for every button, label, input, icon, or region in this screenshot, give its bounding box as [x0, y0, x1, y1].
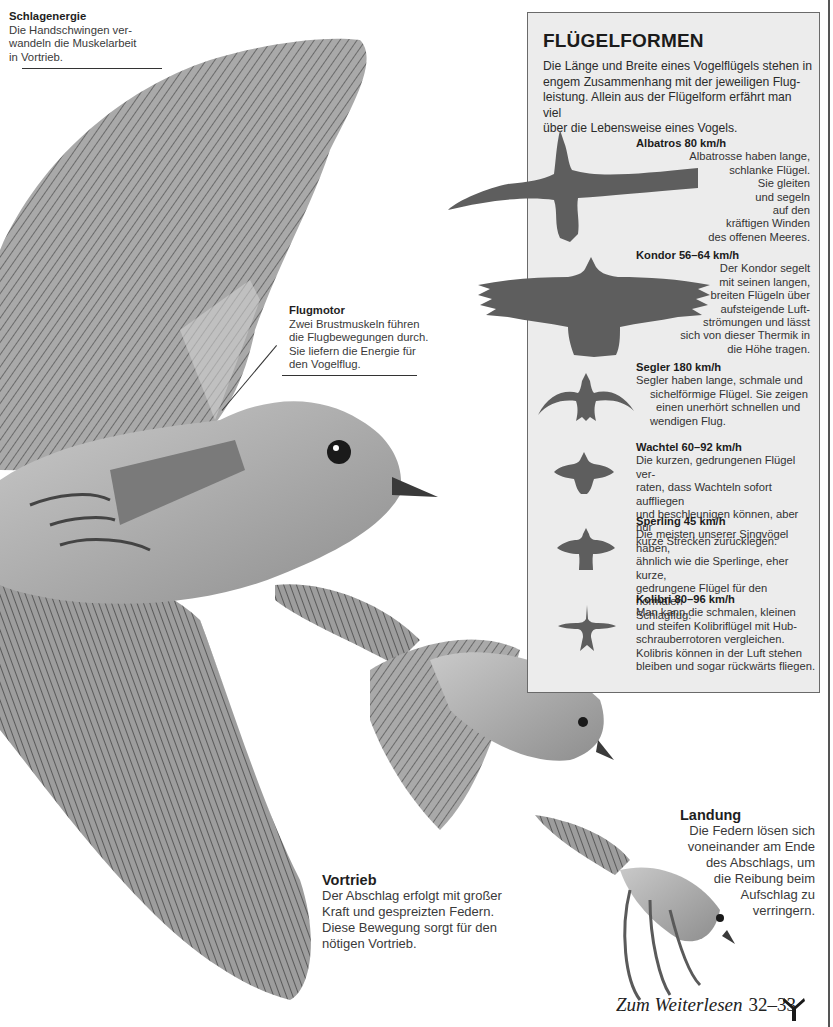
entry-line: und steifen Kolibriflügel mit Hub-	[636, 620, 816, 633]
entry-line: sichelförmige Flügel. Sie zeigen	[636, 388, 816, 401]
caption-line: in Vortrieb.	[9, 51, 169, 65]
caption-line: Die Federn lösen sich	[680, 823, 815, 839]
caption-line: verringern.	[680, 903, 815, 919]
entry-line: bleiben und sogar rückwärts fliegen.	[636, 660, 816, 673]
intro-line: engem Zusammenhang mit der jeweiligen Fl…	[543, 75, 813, 91]
entry-line: raten, dass Wachteln sofort auffliegen	[636, 481, 816, 508]
reference-arrow-icon	[782, 996, 806, 1022]
entry-name: Sperling 45 km/h	[636, 515, 816, 528]
swift-silhouette-icon	[538, 373, 634, 421]
caption-title: Landung	[680, 807, 815, 823]
caption-line: Zwei Brustmuskeln führen	[289, 318, 439, 332]
caption-schlagenergie: Schlagenergie Die Handschwingen ver- wan…	[9, 10, 169, 64]
caption-line: wandeln die Muskelarbeit	[9, 37, 169, 51]
entry-segler: Segler 180 km/h Segler haben lange, schm…	[636, 361, 816, 428]
entry-line: ähnlich wie die Sperlinge, eher kurze,	[636, 555, 816, 582]
condor-silhouette-icon	[478, 257, 710, 357]
main-bird-lower-wing	[0, 560, 311, 1000]
entry-line: Segler haben lange, schmale und	[636, 374, 816, 387]
entry-line: Kolibris können in der Luft stehen	[636, 647, 816, 660]
entry-line: einen unerhört schnellen und	[636, 401, 816, 414]
leader-line-flugmotor	[282, 375, 417, 376]
caption-line: die Reibung beim	[680, 871, 815, 887]
quail-silhouette-icon	[554, 452, 614, 494]
info-box-title: FLÜGELFORMEN	[543, 30, 704, 52]
caption-line: Aufschlag zu	[680, 887, 815, 903]
caption-flugmotor: Flugmotor Zwei Brustmuskeln führen die F…	[289, 304, 439, 372]
caption-line: die Flugbewegungen durch.	[289, 331, 439, 345]
entry-line: wendigen Flug.	[636, 415, 816, 428]
info-box-intro: Die Länge und Breite eines Vogelflügels …	[543, 59, 813, 137]
page-edge-rule	[828, 0, 830, 1027]
caption-landung: Landung Die Federn lösen sich voneinande…	[680, 807, 815, 919]
caption-title: Flugmotor	[289, 304, 439, 318]
entry-line: Man kann die schmalen, kleinen	[636, 606, 816, 619]
entry-kolibri: Kolibri 80–96 km/h Man kann die schmalen…	[636, 593, 816, 673]
caption-title: Vortrieb	[322, 872, 512, 888]
caption-line: den Vogelflug.	[289, 358, 439, 372]
albatross-silhouette-icon	[448, 130, 698, 242]
caption-line: des Abschlags, um	[680, 855, 815, 871]
entry-name: Segler 180 km/h	[636, 361, 816, 374]
entry-name: Wachtel 60–92 km/h	[636, 441, 816, 454]
further-reading-reference[interactable]: Zum Weiterlesen32–33	[616, 994, 796, 1016]
further-reading-label: Zum Weiterlesen	[616, 994, 742, 1015]
caption-line: voneinander am Ende	[680, 839, 815, 855]
intro-line: leistung. Allein aus der Flügelform erfä…	[543, 90, 813, 121]
caption-line: nötigen Vortrieb.	[322, 936, 512, 952]
caption-line: Die Handschwingen ver-	[9, 24, 169, 38]
entry-line: Die kurzen, gedrungenen Flügel ver-	[636, 454, 816, 481]
caption-vortrieb: Vortrieb Der Abschlag erfolgt mit großer…	[322, 872, 512, 952]
entry-line: Die meisten unserer Singvögel haben,	[636, 528, 816, 555]
caption-line: Kraft und gespreizten Federn.	[322, 904, 512, 920]
leader-line-schlagenergie	[22, 68, 162, 69]
caption-line: Der Abschlag erfolgt mit großer	[322, 888, 512, 904]
hummingbird-silhouette-icon	[558, 605, 616, 651]
caption-line: Diese Bewegung sorgt für den	[322, 920, 512, 936]
sparrow-silhouette-icon	[557, 528, 615, 570]
caption-title: Schlagenergie	[9, 10, 169, 24]
caption-line: Sie liefern die Energie für	[289, 345, 439, 359]
intro-line: Die Länge und Breite eines Vogelflügels …	[543, 59, 813, 75]
entry-name: Kolibri 80–96 km/h	[636, 593, 816, 606]
entry-line: schrauberrotoren vergleichen.	[636, 633, 816, 646]
